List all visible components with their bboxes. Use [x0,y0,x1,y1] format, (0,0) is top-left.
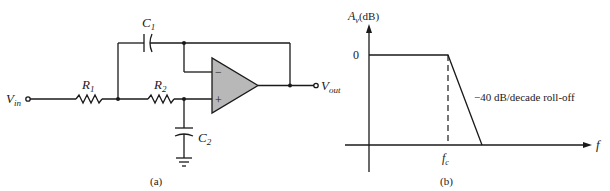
output-label: Vout [321,78,341,95]
c2-label: C2 [198,130,212,147]
resistor-r1 [76,95,102,103]
resistor-r2 [148,95,174,103]
y-tick-0: 0 [353,48,359,62]
x-axis-arrow-icon [583,142,592,148]
response-curve [369,55,482,145]
panel-b-chart: Av(dB) 0 fc f −40 dB/decade roll-off (b) [345,9,602,188]
x-tick-fc: fc [442,151,449,167]
y-axis-label: Av(dB) [347,9,379,25]
rolloff-annotation: −40 dB/decade roll-off [474,91,575,103]
r1-label: R1 [81,77,94,94]
panel-a-caption: (a) [150,175,163,188]
panel-b-caption: (b) [440,175,453,188]
opamp-minus-sign: − [215,65,222,79]
y-axis-arrow-icon [366,24,372,33]
input-label: Vin [6,91,21,108]
input-terminal [26,97,30,101]
ground-icon [176,158,192,166]
opamp-plus-sign: + [215,93,222,107]
output-terminal [314,83,318,87]
x-axis-label: f [596,137,602,152]
panel-a-circuit: − + Vin Vout R1 R2 C1 C2 (a) [6,15,341,188]
c1-label: C1 [142,15,155,32]
figure-canvas: − + Vin Vout R1 R2 C1 C2 (a) [0,0,610,191]
r2-label: R2 [153,77,167,94]
